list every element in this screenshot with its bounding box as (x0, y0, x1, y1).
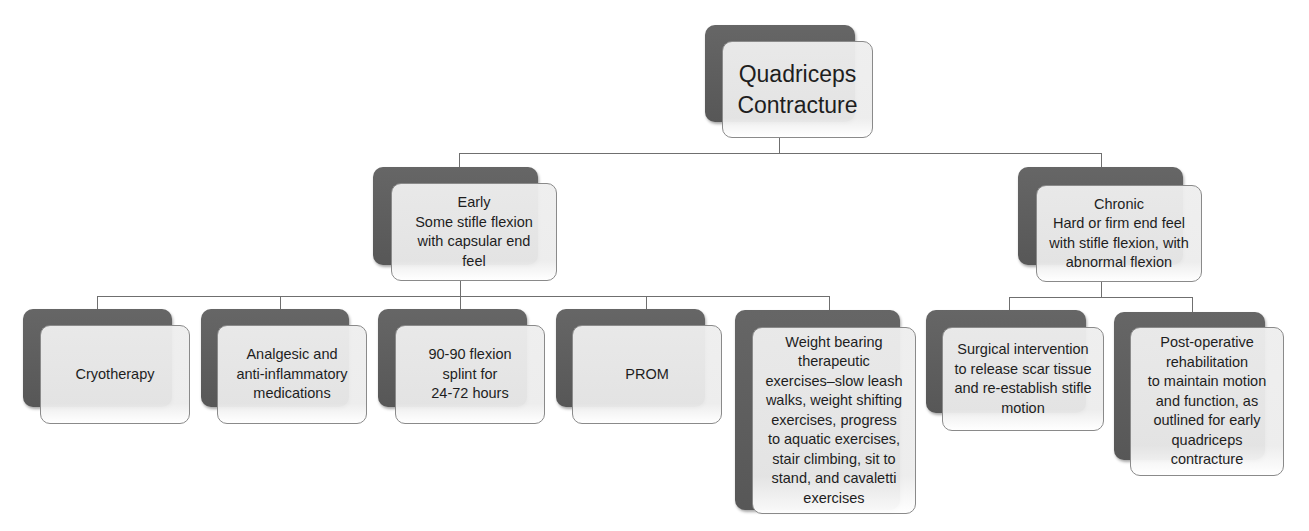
node-root-label: Quadriceps Contracture (737, 59, 857, 121)
node-surgical-box: Surgical intervention to release scar ti… (942, 327, 1104, 431)
node-splint-label: 90-90 flexion splint for 24-72 hours (428, 345, 511, 404)
connector-chronic-down (1101, 281, 1102, 297)
connector-level1-bar (459, 153, 1102, 154)
connector-to-analgesic (280, 296, 281, 309)
connector-to-prom (646, 296, 647, 309)
node-early-label: Early Some stifle flexion with capsular … (415, 193, 533, 271)
connector-chronic-bar (1009, 297, 1193, 298)
node-splint-box: 90-90 flexion splint for 24-72 hours (395, 325, 545, 424)
node-prom-box: PROM (572, 325, 722, 424)
connector-to-postop (1192, 297, 1193, 312)
connector-to-cryotherapy (97, 296, 98, 309)
connector-early-down (460, 280, 461, 296)
connector-root-down (779, 137, 780, 153)
connector-to-weight-bearing (829, 296, 830, 310)
connector-early-bar (97, 296, 830, 297)
connector-to-early (459, 153, 460, 167)
node-prom-label: PROM (625, 365, 669, 385)
node-early-box: Early Some stifle flexion with capsular … (391, 183, 557, 281)
node-analgesic-label: Analgesic and anti-inflammatory medicati… (236, 345, 347, 404)
node-cryotherapy-box: Cryotherapy (40, 325, 190, 424)
connector-to-chronic (1101, 153, 1102, 167)
node-cryotherapy-label: Cryotherapy (76, 365, 155, 385)
node-surgical-label: Surgical intervention to release scar ti… (954, 340, 1091, 418)
node-postop-label: Post-operative rehabilitation to maintai… (1148, 333, 1266, 470)
connector-to-splint (460, 296, 461, 309)
node-weight-bearing-label: Weight bearing therapeutic exercises–slo… (765, 333, 902, 509)
node-chronic-box: Chronic Hard or firm end feel with stifl… (1036, 185, 1202, 282)
node-weight-bearing-box: Weight bearing therapeutic exercises–slo… (752, 327, 916, 514)
node-root-box: Quadriceps Contracture (722, 41, 873, 138)
node-postop-box: Post-operative rehabilitation to maintai… (1130, 327, 1284, 476)
node-analgesic-box: Analgesic and anti-inflammatory medicati… (217, 325, 367, 424)
node-chronic-label: Chronic Hard or firm end feel with stifl… (1049, 195, 1188, 273)
connector-to-surgical (1009, 297, 1010, 310)
